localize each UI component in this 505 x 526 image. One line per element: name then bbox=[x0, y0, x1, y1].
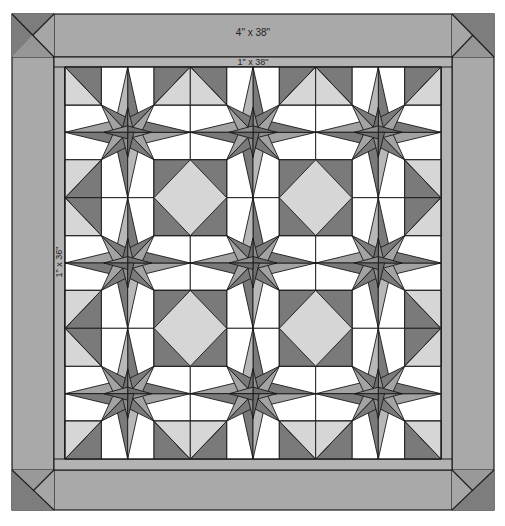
corner-block-bottom-right bbox=[452, 470, 494, 510]
corner-block-top-right bbox=[452, 14, 494, 57]
quilt-diagram: 4" x 38" 1" x 38" 1" x 36" bbox=[0, 0, 505, 526]
outer-border-label: 4" x 38" bbox=[236, 27, 271, 38]
quilt-center bbox=[65, 67, 441, 459]
corner-block-bottom-left bbox=[12, 470, 54, 510]
corner-block-top-left bbox=[12, 14, 54, 57]
inner-border-side-label: 1" x 36" bbox=[54, 247, 64, 278]
inner-border-top-label: 1" x 38" bbox=[238, 57, 269, 67]
